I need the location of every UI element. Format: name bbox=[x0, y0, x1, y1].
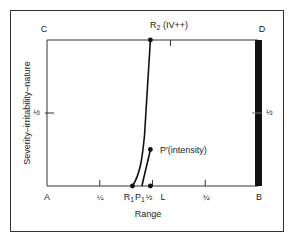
point-p-prime-dot bbox=[148, 147, 153, 152]
y-axis-title: Severity–irritability–nature bbox=[22, 61, 32, 165]
x-tick-label-quarter: ¼ bbox=[97, 193, 104, 202]
point-r1-dot bbox=[130, 184, 135, 189]
point-r2-dot bbox=[148, 38, 153, 43]
point-label-p-prime: P'(intensity) bbox=[160, 145, 207, 155]
point-label-r2: R2 (IV++) bbox=[150, 20, 188, 31]
plot-box bbox=[47, 40, 258, 186]
corner-label-a: A bbox=[44, 192, 50, 202]
corner-label-d: D bbox=[259, 24, 266, 34]
axis-ticks bbox=[45, 40, 262, 186]
movement-diagram: C D A B ¼ ½ ¾ ½ ½ Range Severity–irritab… bbox=[0, 0, 296, 245]
corner-label-c: C bbox=[41, 24, 48, 34]
y-tick-label-half-right: ½ bbox=[266, 108, 273, 117]
point-label-r1: R1 bbox=[124, 192, 135, 203]
point-half-dot bbox=[148, 184, 153, 189]
x-tick-label-three-quarter: ¾ bbox=[203, 193, 210, 202]
x-axis-title: Range bbox=[135, 209, 162, 219]
x-tick-label-half: ½ bbox=[146, 193, 153, 202]
p-curve bbox=[142, 150, 150, 187]
point-label-l: L bbox=[160, 192, 165, 202]
corner-label-b: B bbox=[256, 192, 262, 202]
point-label-p1: P1 bbox=[135, 192, 145, 203]
y-tick-label-half-left: ½ bbox=[33, 108, 40, 117]
